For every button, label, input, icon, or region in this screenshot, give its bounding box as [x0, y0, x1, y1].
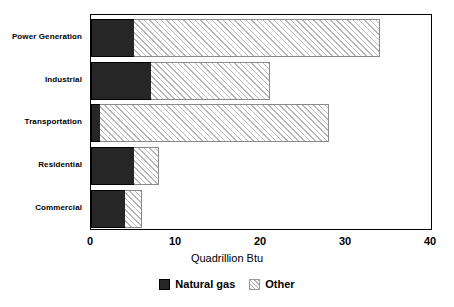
x-axis-tick-label: 40 — [410, 235, 450, 247]
legend-item: Natural gas — [159, 278, 235, 290]
stacked-bar-chart: Power GenerationIndustrialTransportation… — [0, 0, 454, 307]
bars-layer — [91, 15, 431, 229]
plot-area — [90, 14, 432, 230]
bar-row — [91, 104, 329, 142]
category-label: Residential — [0, 160, 82, 169]
solid-dark-swatch — [159, 279, 170, 290]
bar-segment-natural-gas — [91, 190, 125, 228]
bar-segment-natural-gas — [91, 104, 100, 142]
bar-segment-other — [125, 190, 142, 228]
bar-row — [91, 147, 159, 185]
category-label: Commercial — [0, 203, 82, 212]
x-axis-tick-label: 30 — [325, 235, 365, 247]
legend-label: Natural gas — [175, 278, 235, 290]
category-label: Industrial — [0, 75, 82, 84]
bar-segment-natural-gas — [91, 62, 151, 100]
legend-item: Other — [249, 278, 294, 290]
bar-row — [91, 190, 142, 228]
bar-row — [91, 62, 270, 100]
x-axis-tick-label: 10 — [155, 235, 195, 247]
bar-segment-other — [134, 19, 381, 57]
chart-legend: Natural gasOther — [0, 278, 454, 290]
category-label: Transportation — [0, 117, 82, 126]
x-axis-tick-label: 20 — [240, 235, 280, 247]
x-axis-title: Quadrillion Btu — [0, 252, 454, 264]
bar-segment-natural-gas — [91, 147, 134, 185]
x-axis-tick-label: 0 — [70, 235, 110, 247]
legend-label: Other — [265, 278, 294, 290]
bar-segment-other — [100, 104, 330, 142]
bar-segment-other — [134, 147, 160, 185]
bar-segment-natural-gas — [91, 19, 134, 57]
hatched-light-swatch — [249, 279, 260, 290]
category-label: Power Generation — [0, 32, 82, 41]
bar-segment-other — [151, 62, 270, 100]
bar-row — [91, 19, 380, 57]
